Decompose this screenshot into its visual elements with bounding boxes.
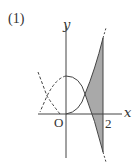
dashed-arc-left-upper	[40, 76, 66, 112]
diagram-canvas	[0, 0, 136, 166]
upper-curve-dashed-extension	[103, 28, 106, 38]
shaded-region	[85, 38, 103, 152]
lower-curve-dashed-extension	[103, 152, 106, 162]
parabola-arc-ascending	[66, 94, 85, 114]
parabola-arc-descending	[66, 76, 85, 94]
